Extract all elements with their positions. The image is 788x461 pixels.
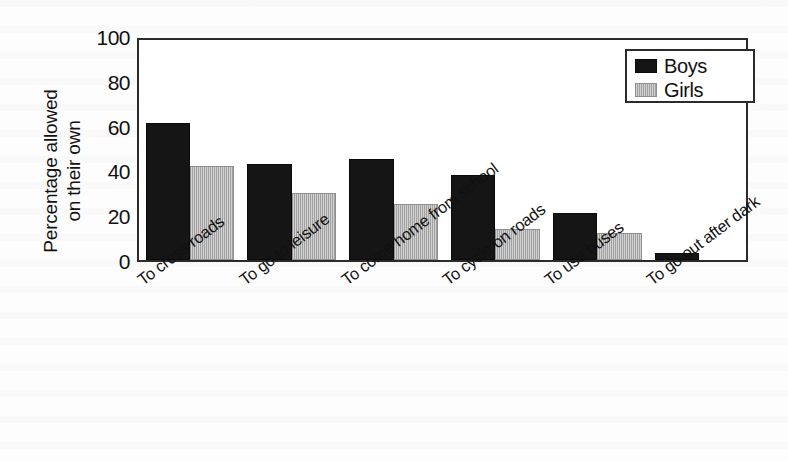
x-tick-label: To go to leisure <box>236 210 332 289</box>
legend-label-boys: Boys <box>664 56 707 76</box>
chart-legend: Boys Girls <box>625 49 755 103</box>
x-tick-label: To cycle on roads <box>439 200 548 289</box>
legend-swatch-girls-icon <box>635 83 657 97</box>
x-tick-label: To come home from school <box>338 159 501 288</box>
legend-label-girls: Girls <box>664 80 703 100</box>
legend-entry-boys: Boys <box>635 54 753 78</box>
legend-swatch-boys-icon <box>635 59 657 73</box>
bar-chart-figure: Percentage allowed on their own 10080604… <box>0 0 788 461</box>
x-tick-label: To go out after dark <box>643 192 763 288</box>
x-tick-label: To use buses <box>541 218 627 289</box>
legend-entry-girls: Girls <box>635 78 753 102</box>
x-tick-label: To cross roads <box>134 212 227 288</box>
